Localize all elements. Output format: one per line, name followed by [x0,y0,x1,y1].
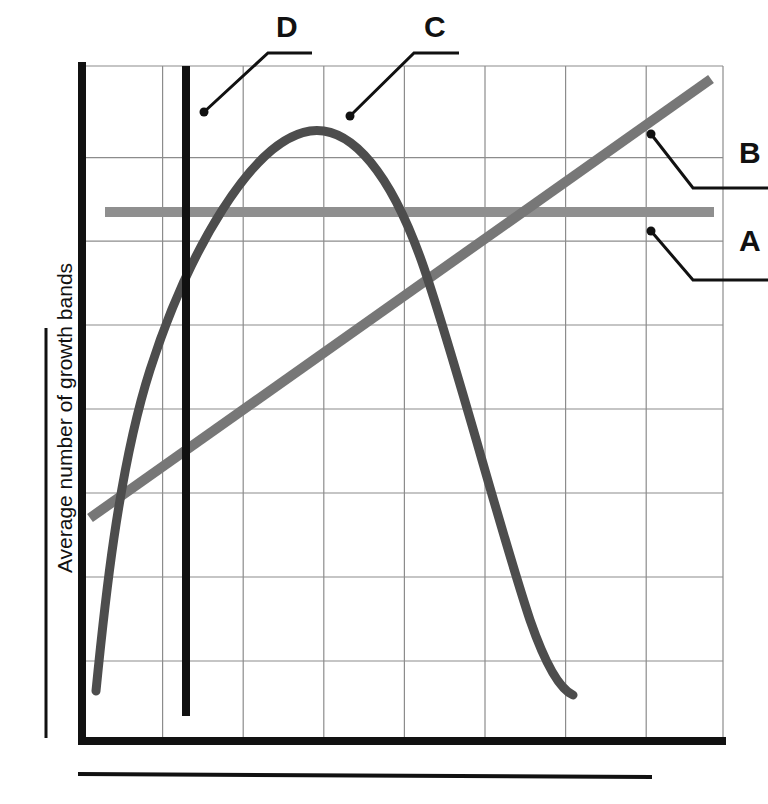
plot-background [78,66,723,743]
y-axis-label: Average number of growth bands [45,253,85,583]
annotation-label-d: D [276,12,298,42]
x-axis-label [78,786,678,804]
x-axis-label-rule [78,774,652,777]
annotation-label-a: A [739,226,761,256]
y-axis-label-text: Average number of growth bands [53,263,77,573]
annotation-label-b: B [739,138,761,168]
chart-svg [0,0,768,804]
annotation-label-c: C [424,12,446,42]
figure-canvas: D C B A Average number of growth bands [0,0,768,804]
